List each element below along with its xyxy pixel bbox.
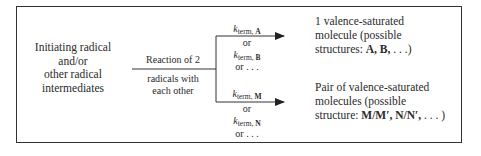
rate-constant-A: kterm, A — [233, 23, 260, 38]
upper-product-line-1: 1 valence-saturated — [315, 15, 404, 29]
reaction-label-below-1: radicals with — [147, 73, 198, 85]
rate-constant-M: kterm, M — [232, 88, 261, 103]
upper-product-line-2: molecule (possible — [315, 29, 402, 43]
or-label: or — [243, 37, 251, 49]
subscript-term: term, — [238, 119, 256, 128]
lower-product-line-2: molecules (possible — [315, 95, 406, 109]
structure-species: M/M′, N/N′, — [361, 109, 421, 121]
upper-product-line-3: structures: A, B, . . .) — [315, 43, 411, 57]
source-line-2: and/or — [58, 55, 87, 68]
subscript-species: M — [254, 92, 261, 101]
or-ellipsis-label: or . . . — [235, 128, 258, 140]
lower-product-line-3: structure: M/M′, N/N′, . . . ) — [315, 109, 445, 123]
structures-ellipsis: . . .) — [390, 43, 411, 55]
subscript-term: term, — [238, 27, 256, 36]
lower-product-line-1: Pair of valence-saturated — [315, 81, 429, 95]
subscript-term: term, — [237, 92, 255, 101]
structure-label: structure: — [315, 109, 361, 121]
reaction-label-below-2: each other — [152, 85, 193, 97]
source-line-4: intermediates — [42, 82, 104, 95]
source-line-3: other radical — [44, 68, 102, 81]
source-line-1: Initiating radical — [35, 41, 111, 54]
or-label: or — [243, 103, 251, 115]
subscript-species: N — [255, 119, 260, 128]
structures-species: A, B, — [366, 43, 391, 55]
subscript-species: A — [255, 27, 260, 36]
or-ellipsis-label: or . . . — [235, 61, 258, 73]
reaction-label-above: Reaction of 2 — [146, 54, 200, 66]
structures-label: structures: — [315, 43, 366, 55]
structure-ellipsis: . . . ) — [421, 109, 445, 121]
